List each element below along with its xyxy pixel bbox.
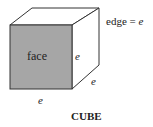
edge-definition: edge = e [106, 16, 143, 27]
diagram-title: CUBE [71, 111, 102, 122]
face-label: face [27, 50, 47, 62]
edge-label-bottom: e [38, 95, 43, 106]
edge-definition-symbol: e [138, 15, 143, 27]
edge-label-depth: e [91, 76, 96, 87]
edge-definition-text: edge = [106, 15, 138, 27]
edge-label-vertical: e [75, 51, 80, 62]
